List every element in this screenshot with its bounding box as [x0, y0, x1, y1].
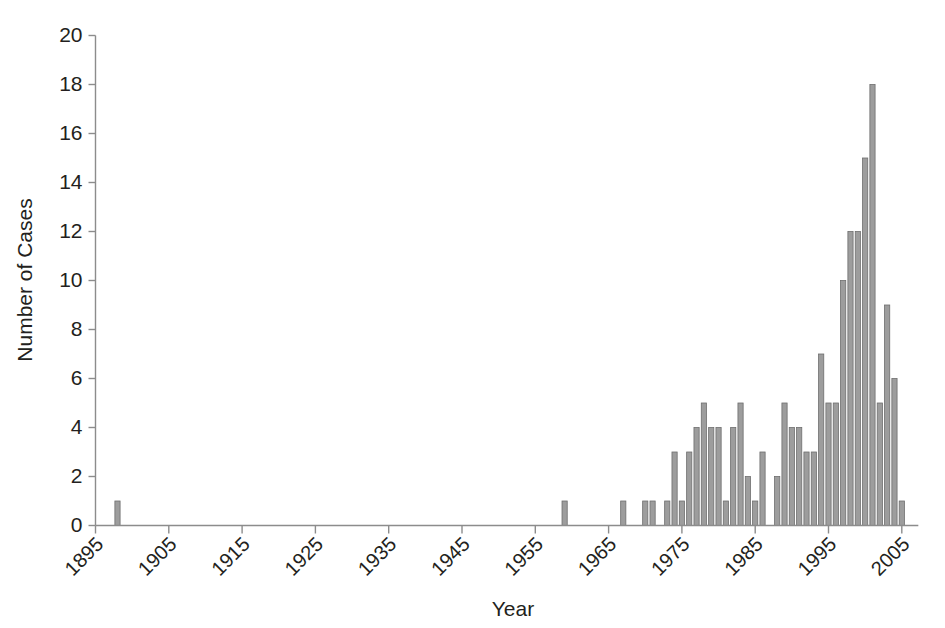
histogram-bar — [701, 403, 706, 526]
histogram-bar — [811, 452, 816, 526]
histogram-bar — [819, 354, 824, 526]
x-tick-label: 1895 — [60, 533, 107, 580]
histogram-bar — [716, 428, 721, 526]
histogram-bar — [709, 428, 714, 526]
x-tick-label: 1935 — [354, 533, 401, 580]
histogram-bar — [804, 452, 809, 526]
histogram-bar — [892, 379, 897, 526]
histogram-bar — [621, 501, 626, 526]
y-axis-ticks: 02468101214161820 — [59, 23, 95, 536]
number-of-cases-by-year-histogram: 02468101214161820 1895190519151925193519… — [0, 0, 945, 628]
histogram-bar — [870, 85, 875, 526]
y-tick-label: 20 — [59, 23, 82, 46]
histogram-bar — [731, 428, 736, 526]
histogram-bar — [760, 452, 765, 526]
histogram-bar — [679, 501, 684, 526]
histogram-bar — [899, 501, 904, 526]
x-axis-ticks: 1895190519151925193519451955196519751985… — [60, 526, 913, 580]
x-tick-label: 1945 — [427, 533, 474, 580]
x-tick-label: 1985 — [720, 533, 767, 580]
histogram-bar — [855, 232, 860, 526]
histogram-bar — [745, 477, 750, 526]
x-tick-label: 1955 — [500, 533, 547, 580]
histogram-bar — [863, 158, 868, 526]
histogram-bar — [753, 501, 758, 526]
histogram-bar — [833, 403, 838, 526]
histogram-bar — [841, 281, 846, 526]
histogram-bar — [650, 501, 655, 526]
y-tick-label: 4 — [71, 415, 83, 438]
histogram-bar — [848, 232, 853, 526]
histogram-bar — [789, 428, 794, 526]
histogram-bar — [775, 477, 780, 526]
bars-group — [115, 85, 905, 526]
histogram-bar — [723, 501, 728, 526]
histogram-bar — [687, 452, 692, 526]
histogram-bar — [738, 403, 743, 526]
y-tick-label: 16 — [59, 121, 82, 144]
y-tick-label: 0 — [71, 513, 83, 536]
histogram-bar — [782, 403, 787, 526]
histogram-bar — [672, 452, 677, 526]
x-tick-label: 2005 — [867, 533, 914, 580]
y-tick-label: 10 — [59, 268, 82, 291]
y-tick-label: 18 — [59, 72, 82, 95]
y-axis-title: Number of Cases — [13, 198, 36, 361]
y-tick-label: 6 — [71, 366, 83, 389]
x-tick-label: 1965 — [573, 533, 620, 580]
x-tick-label: 1915 — [207, 533, 254, 580]
x-tick-label: 1925 — [280, 533, 327, 580]
x-tick-label: 1975 — [647, 533, 694, 580]
y-tick-label: 8 — [71, 317, 83, 340]
y-tick-label: 14 — [59, 170, 83, 193]
y-tick-label: 2 — [71, 464, 83, 487]
axes-group — [96, 36, 919, 526]
histogram-figure: 02468101214161820 1895190519151925193519… — [0, 0, 945, 628]
histogram-bar — [115, 501, 120, 526]
histogram-bar — [643, 501, 648, 526]
x-tick-label: 1905 — [134, 533, 181, 580]
histogram-bar — [885, 305, 890, 526]
histogram-bar — [826, 403, 831, 526]
histogram-bar — [562, 501, 567, 526]
histogram-bar — [665, 501, 670, 526]
histogram-bar — [694, 428, 699, 526]
histogram-bar — [797, 428, 802, 526]
y-tick-label: 12 — [59, 219, 82, 242]
x-axis-title: Year — [492, 597, 534, 620]
histogram-bar — [877, 403, 882, 526]
x-tick-label: 1995 — [793, 533, 840, 580]
